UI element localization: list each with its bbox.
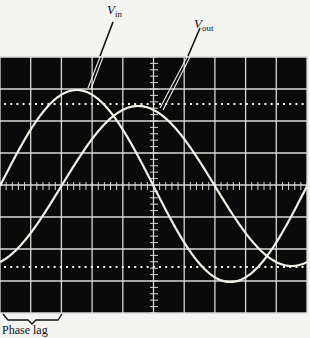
phase-lag-label: Phase lag (2, 323, 48, 338)
vin-pointer (100, 22, 113, 56)
vout-label: Vout (194, 16, 213, 33)
vin-label: Vin (107, 2, 122, 19)
oscilloscope-display (0, 0, 310, 338)
